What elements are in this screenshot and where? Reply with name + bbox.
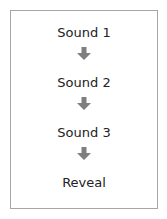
down-arrow-icon [77,147,91,160]
step-reveal: Reveal [11,175,157,191]
flow-diagram: Sound 1 Sound 2 Sound 3 Reveal [10,10,158,209]
down-arrow-icon [77,97,91,110]
step-sound-3: Sound 3 [11,125,157,141]
step-sound-1: Sound 1 [11,25,157,41]
down-arrow-icon [77,47,91,60]
step-sound-2: Sound 2 [11,75,157,91]
